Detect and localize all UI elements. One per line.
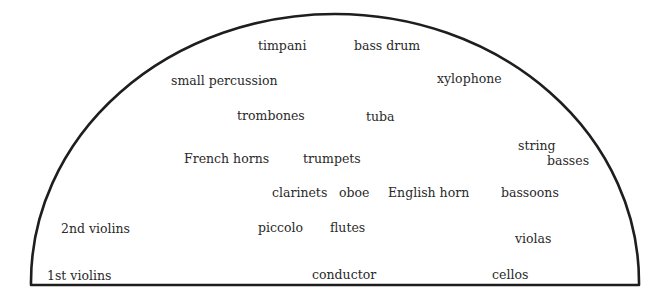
label-trombones: trombones [237,110,305,123]
label-french-horns: French horns [184,153,269,166]
label-small-percussion: small percussion [171,75,278,88]
label-conductor: conductor [312,269,376,282]
label-piccolo: piccolo [258,222,303,235]
label-oboe: oboe [339,187,369,200]
label-cellos: cellos [492,269,528,282]
label-violas: violas [515,233,551,246]
label-xylophone: xylophone [437,73,502,86]
label-tuba: tuba [366,111,395,124]
label-2nd-violins: 2nd violins [61,223,130,236]
label-bass-drum: bass drum [354,40,420,53]
label-flutes: flutes [330,222,365,235]
label-trumpets: trumpets [303,153,361,166]
label-english-horn: English horn [388,187,469,200]
label-clarinets: clarinets [272,187,327,200]
orchestra-seating-diagram: timpani bass drum small percussion xylop… [0,0,666,302]
label-1st-violins: 1st violins [47,270,111,283]
label-string-basses-line1: string [518,140,555,153]
label-string-basses-line2: basses [547,155,589,168]
label-timpani: timpani [258,40,306,53]
label-bassoons: bassoons [501,187,559,200]
